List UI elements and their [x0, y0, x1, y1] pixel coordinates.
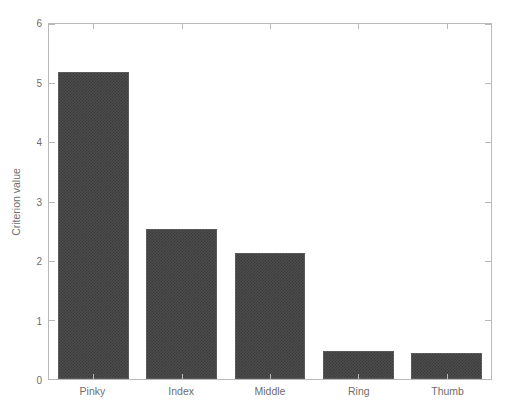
- y-tick-mark-right: [485, 202, 491, 203]
- y-tick-label: 3: [36, 196, 42, 207]
- x-tick-mark-bottom: [358, 374, 359, 379]
- y-tick-mark: [49, 202, 55, 203]
- x-tick-mark-bottom: [447, 374, 448, 379]
- figure-canvas: Criterion value 0123456 PinkyIndexMiddle…: [0, 0, 516, 413]
- x-tick-mark-bottom: [182, 374, 183, 379]
- x-tick-label-middle: Middle: [226, 385, 315, 397]
- bar-slot: [314, 24, 402, 379]
- y-tick-mark-right: [485, 24, 491, 25]
- x-tick-mark-top: [182, 24, 183, 29]
- bar-slot: [49, 24, 137, 379]
- x-tick-label-thumb: Thumb: [403, 385, 492, 397]
- x-tick-mark-top: [447, 24, 448, 29]
- y-tick-label: 0: [36, 375, 42, 386]
- y-axis-tick-labels: 0123456: [0, 23, 42, 380]
- bar-pinky[interactable]: [58, 72, 129, 379]
- bar-slot: [137, 24, 225, 379]
- bars-container: [49, 24, 491, 379]
- x-tick-label-pinky: Pinky: [48, 385, 137, 397]
- x-tick-mark-top: [93, 24, 94, 29]
- y-tick-mark: [49, 320, 55, 321]
- y-tick-mark: [49, 142, 55, 143]
- y-tick-mark: [49, 83, 55, 84]
- y-tick-mark-right: [485, 261, 491, 262]
- y-tick-label: 5: [36, 77, 42, 88]
- y-tick-mark-right: [485, 320, 491, 321]
- bar-index[interactable]: [146, 229, 217, 379]
- x-tick-mark-top: [358, 24, 359, 29]
- bar-slot: [403, 24, 491, 379]
- bar-slot: [226, 24, 314, 379]
- y-tick-label: 4: [36, 137, 42, 148]
- x-tick-label-index: Index: [137, 385, 226, 397]
- y-tick-label: 1: [36, 315, 42, 326]
- x-axis-tick-labels: PinkyIndexMiddleRingThumb: [48, 385, 492, 397]
- y-tick-mark: [49, 379, 55, 380]
- plot-axes: [48, 23, 492, 380]
- y-tick-mark-right: [485, 379, 491, 380]
- x-tick-mark-bottom: [93, 374, 94, 379]
- x-tick-label-ring: Ring: [314, 385, 403, 397]
- y-tick-mark-right: [485, 142, 491, 143]
- x-tick-mark-top: [270, 24, 271, 29]
- y-tick-mark: [49, 24, 55, 25]
- y-tick-label: 6: [36, 18, 42, 29]
- x-tick-mark-bottom: [270, 374, 271, 379]
- y-tick-mark-right: [485, 83, 491, 84]
- y-tick-mark: [49, 261, 55, 262]
- bar-middle[interactable]: [235, 253, 306, 379]
- y-tick-label: 2: [36, 256, 42, 267]
